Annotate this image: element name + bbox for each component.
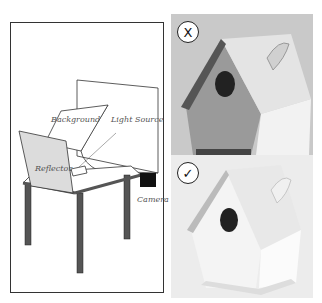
photo-incorrect-lighting: X — [171, 14, 313, 155]
label-background: Background — [51, 115, 100, 124]
incorrect-badge-icon: X — [177, 21, 199, 43]
setup-illustration — [11, 23, 165, 294]
studio-setup-diagram: Background Light Source Reflector Camera — [10, 22, 164, 293]
correct-badge-icon: ✓ — [177, 162, 199, 184]
label-reflector: Reflector — [35, 164, 72, 173]
label-light-source: Light Source — [111, 115, 163, 124]
label-camera: Camera — [137, 195, 169, 204]
photo-correct-lighting: ✓ — [171, 155, 313, 298]
